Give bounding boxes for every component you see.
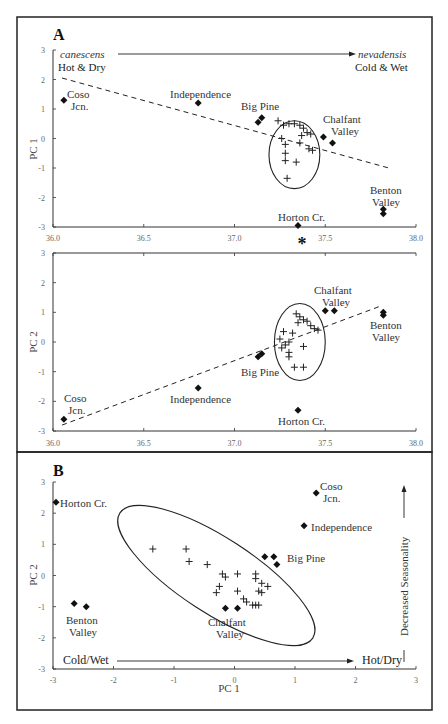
label-benton-a2: Benton <box>370 319 402 331</box>
x-tick-label-a-top: 37.0 <box>228 234 242 243</box>
site-point-big-pine-b <box>273 561 280 568</box>
x-tick-label-a-bottom: 38.0 <box>409 439 423 448</box>
hot-dry-label: Hot & Dry <box>58 61 106 73</box>
y-tick-label-a-top: 1 <box>41 105 45 114</box>
cluster-point-a-bottom <box>295 319 302 326</box>
label-chalfant-a2: Chalfant <box>314 284 352 296</box>
nevadensis-label: nevadensis <box>358 48 406 60</box>
site-point-chalfant-valley-a-bottom <box>331 307 338 314</box>
cluster-point-b <box>234 588 241 595</box>
cluster-point-a-top <box>296 139 303 146</box>
x-tick-label-b: 2 <box>354 676 358 685</box>
cluster-ellipse-a-top <box>269 121 320 189</box>
site-point-horton-cr-b <box>53 499 60 506</box>
cluster-point-b <box>258 589 265 596</box>
y-tick-label-b: -3 <box>38 665 45 674</box>
y-tick-label-a-bottom: 2 <box>41 279 45 288</box>
cluster-point-a-top <box>282 157 289 164</box>
label-chalfant-a2b: Valley <box>322 296 351 308</box>
species-arrow-head <box>349 52 356 57</box>
site-point-chalfant-valley-b <box>234 605 241 612</box>
cluster-point-a-bottom <box>296 313 303 320</box>
hot-dry-b-label: Hot/Dry <box>362 653 402 667</box>
y-tick-label-a-bottom: -1 <box>38 368 45 377</box>
cluster-point-b <box>222 574 229 581</box>
y-tick-label-b: -2 <box>38 634 45 643</box>
site-point-coso-jcn-a-bottom <box>60 416 67 423</box>
label-coso-b: Coso <box>320 480 343 492</box>
site-point-chalfant-valley-a-bottom <box>322 307 329 314</box>
x-tick-label-b: -1 <box>171 676 178 685</box>
x-tick-label-b: -2 <box>110 676 117 685</box>
x-tick-label-b: 3 <box>414 676 418 685</box>
cluster-point-a-bottom <box>289 330 296 337</box>
cluster-point-a-bottom <box>300 343 307 350</box>
y-tick-label-a-bottom: 3 <box>41 249 45 258</box>
label-chalfant-bb: Valley <box>216 628 245 640</box>
cold-wet-label: Cold & Wet <box>355 61 408 73</box>
cluster-point-a-bottom <box>314 327 321 334</box>
x-tick-label-b: 0 <box>233 676 237 685</box>
y-tick-label-b: 2 <box>41 509 45 518</box>
ylabel-b: PC 2 <box>27 564 39 586</box>
cluster-point-b <box>204 561 211 568</box>
cluster-ellipse-b <box>100 481 334 669</box>
label-bigpine-a2: Big Pine <box>241 366 279 378</box>
ylabel-a-top: PC 1 <box>27 138 39 160</box>
x-tick-label-a-bottom: 37.5 <box>318 439 332 448</box>
label-benton-a2b: Valley <box>372 331 401 343</box>
label-chalfant-a1: Chalfant <box>323 113 361 125</box>
label-bigpine-a1: Big Pine <box>241 100 279 112</box>
site-point-chalfant-valley-b <box>222 605 229 612</box>
cluster-point-a-bottom <box>285 353 292 360</box>
cluster-point-a-bottom <box>293 310 300 317</box>
y-tick-label-b: 0 <box>41 572 45 581</box>
cluster-point-b <box>264 583 271 590</box>
cluster-point-a-bottom <box>291 364 298 371</box>
site-point-horton-cr-a-bottom <box>295 407 302 414</box>
label-horton-a1: Horton Cr. <box>278 211 325 223</box>
y-tick-label-a-top: -2 <box>38 194 45 203</box>
label-chalfant-a1b: Valley <box>331 125 360 137</box>
cluster-point-b <box>183 546 190 553</box>
cluster-point-b <box>149 546 156 553</box>
xlabel-b: PC 1 <box>218 682 240 694</box>
cluster-point-a-bottom <box>280 328 287 335</box>
y-tick-label-a-top: -3 <box>38 223 45 232</box>
site-point-chalfant-valley-a-top <box>320 134 327 141</box>
x-tick-label-b: 1 <box>293 676 297 685</box>
label-horton-b: Horton Cr. <box>60 497 107 509</box>
cluster-point-a-top <box>282 141 289 148</box>
label-independence-a2: Independence <box>170 393 231 405</box>
cluster-point-a-bottom <box>304 318 311 325</box>
y-tick-label-b: 1 <box>41 540 45 549</box>
y-tick-label-b: 3 <box>41 478 45 487</box>
site-point-chalfant-valley-a-top <box>329 139 336 146</box>
cluster-point-b <box>258 580 265 587</box>
cluster-point-b <box>252 575 259 582</box>
asterisk-marker: * <box>298 234 307 254</box>
y-tick-label-a-bottom: 0 <box>41 338 45 347</box>
label-benton-a1: Benton <box>370 184 402 196</box>
label-benton-a1b: Valley <box>372 196 401 208</box>
site-point-benton-valley-a-top <box>380 210 387 217</box>
cluster-point-a-top <box>275 117 282 124</box>
cluster-point-a-top <box>300 125 307 132</box>
x-tick-label-a-top: 38.0 <box>409 234 423 243</box>
cluster-point-b <box>243 598 250 605</box>
cluster-point-b <box>255 588 262 595</box>
cluster-point-b <box>219 570 226 577</box>
cluster-point-b <box>255 602 262 609</box>
cold-wet-b-label: Cold/Wet <box>63 653 109 667</box>
cluster-point-a-bottom <box>276 336 283 343</box>
label-coso-a1b: Jcn. <box>71 100 89 112</box>
site-point-big-pine-b <box>261 553 268 560</box>
label-benton-b: Benton <box>66 614 98 626</box>
cluster-point-a-bottom <box>300 364 307 371</box>
x-tick-label-a-bottom: 37.0 <box>228 439 242 448</box>
canescens-label: canescens <box>60 48 105 60</box>
seasonality-arrow-head <box>402 485 407 492</box>
label-coso-a2b: Jcn. <box>68 404 86 416</box>
cluster-point-a-top <box>293 159 300 166</box>
cluster-point-b <box>234 570 241 577</box>
